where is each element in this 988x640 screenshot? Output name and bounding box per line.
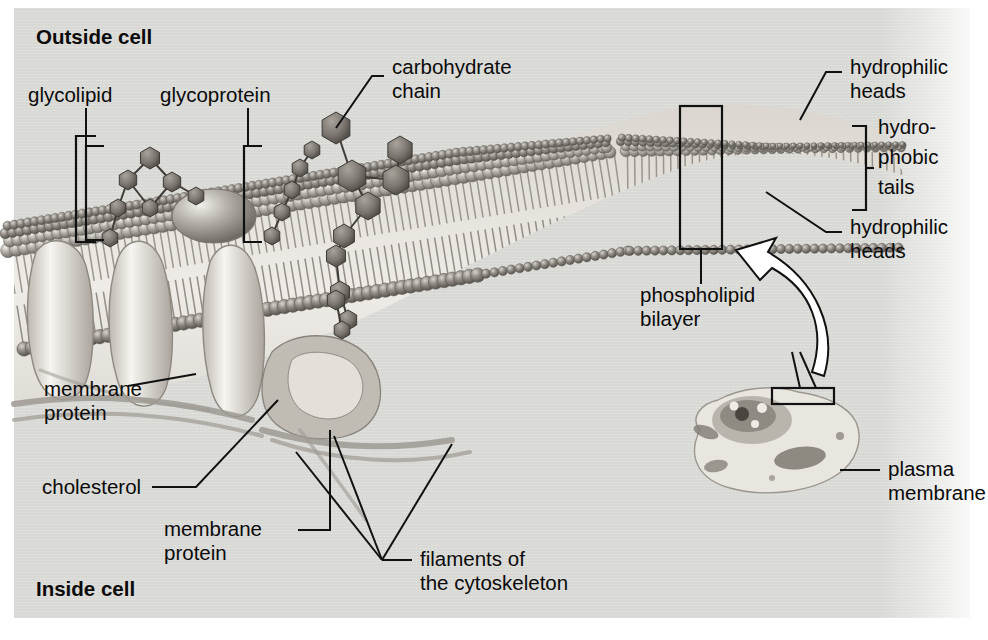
carbohydrate-chain-label-line1: carbohydrate: [392, 56, 512, 78]
hydrophilic-heads-top-label-line2: heads: [850, 80, 906, 102]
glycolipid-label: glycolipid: [28, 84, 112, 106]
glycoprotein-label: glycoprotein: [160, 84, 271, 106]
membrane-protein-left-label-line2: protein: [44, 402, 107, 424]
hydrophobic-tails-label-line2: phobic: [878, 146, 938, 168]
hydrophilic-heads-top-label-line1: hydrophilic: [850, 56, 948, 78]
filaments-label-line1: filaments of: [420, 548, 525, 570]
membrane-protein-lower-label-line2: protein: [164, 542, 227, 564]
hydrophobic-tails-label-line3: tails: [878, 176, 914, 198]
filaments-label-line2: the cytoskeleton: [420, 572, 568, 594]
phospholipid-bilayer-label-line1: phospholipid: [640, 284, 755, 306]
membrane-protein-left-label-line1: membrane: [44, 378, 142, 400]
figure-canvas: Outside cell Inside cell glycolipid glyc…: [0, 0, 988, 640]
annotation-lines: [0, 0, 988, 640]
hydrophobic-tails-label-line1: hydro-: [878, 116, 936, 138]
phospholipid-bilayer-label-line2: bilayer: [640, 308, 700, 330]
inside-cell-label: Inside cell: [36, 578, 135, 600]
hydrophilic-heads-bottom-label-line2: heads: [850, 240, 906, 262]
plasma-membrane-label-line2: membrane: [888, 482, 986, 504]
outside-cell-label: Outside cell: [36, 26, 152, 48]
carbohydrate-chain-label-line2: chain: [392, 80, 441, 102]
cholesterol-label: cholesterol: [42, 476, 141, 498]
curved-arrow-icon: [736, 238, 828, 376]
plasma-membrane-label-line1: plasma: [888, 458, 954, 480]
membrane-protein-lower-label-line1: membrane: [164, 518, 262, 540]
hydrophilic-heads-bottom-label-line1: hydrophilic: [850, 216, 948, 238]
